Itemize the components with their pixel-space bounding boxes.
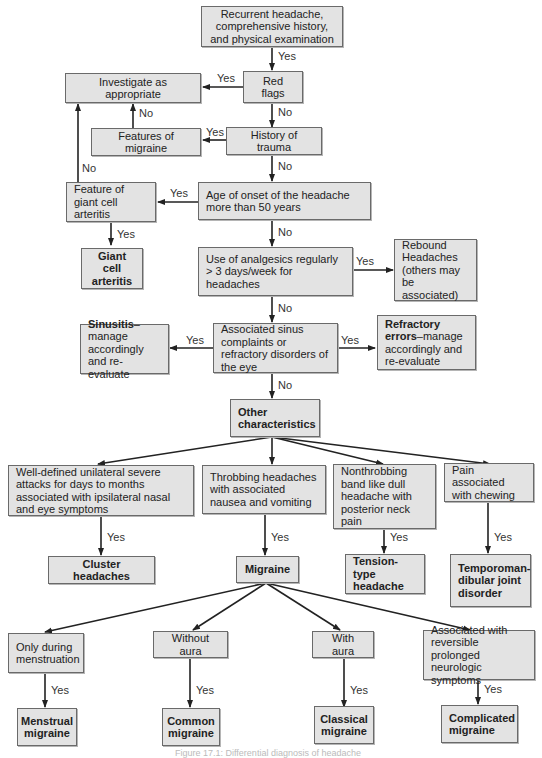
edge-label-yes: Yes — [278, 50, 296, 62]
edge-label-no: No — [278, 160, 292, 172]
node-nonthrobbing: Nonthrobbing band like dull headache wit… — [333, 464, 436, 529]
node-sinus: Associated sinus complaints or refractor… — [213, 323, 338, 373]
edge-label-yes: Yes — [206, 126, 224, 138]
edge-label-yes: Yes — [350, 684, 368, 696]
node-sinusitis: Sinusitis–manage accordingly and re-eval… — [80, 324, 169, 374]
node-analgesics: Use of analgesics regularly > 3 days/wee… — [198, 247, 353, 296]
node-red-flags: Red flags — [243, 71, 303, 103]
edge-label-yes: Yes — [196, 684, 214, 696]
node-complicated-migraine: Complicated migraine — [441, 705, 518, 743]
node-giant-cell-feature: Feature of giant cell arteritis — [66, 182, 156, 222]
edge-label-no: No — [278, 226, 292, 238]
node-unilateral: Well-defined unilateral severe attacks f… — [8, 465, 194, 516]
edge-label-yes: Yes — [51, 684, 69, 696]
node-without-aura: Without aura — [153, 631, 228, 658]
node-investigate: Investigate as appropriate — [65, 73, 201, 103]
node-classical-migraine: Classical migraine — [314, 706, 374, 744]
node-migraine: Migraine — [236, 556, 299, 583]
edge-label-no: No — [278, 302, 292, 314]
node-common-migraine: Common migraine — [162, 708, 220, 746]
node-other-characteristics: Other characteristics — [230, 399, 320, 437]
node-throbbing: Throbbing headaches with associated naus… — [202, 465, 326, 514]
edge-label-yes: Yes — [271, 531, 289, 543]
node-tmj: Temporoman-dibular joint disorder — [450, 554, 531, 607]
node-cluster-headaches: Cluster headaches — [48, 556, 155, 584]
edge-label-yes: Yes — [356, 255, 374, 267]
edge-label-yes: Yes — [390, 531, 408, 543]
edge-label-no: No — [139, 107, 153, 119]
node-rebound: Rebound Headaches (others may be associa… — [394, 239, 477, 301]
edge-label-yes: Yes — [117, 228, 135, 240]
figure-caption: Figure 17.1: Differential diagnosis of h… — [175, 748, 361, 758]
edge-label-no: No — [278, 379, 292, 391]
edge-label-yes: Yes — [484, 683, 502, 695]
node-giant-cell-arteritis: Giant cell arteritis — [81, 248, 143, 289]
node-chewing: Pain associated with chewing — [444, 463, 534, 502]
node-menstrual-migraine: Menstrual migraine — [17, 708, 77, 746]
node-age-onset: Age of onset of the headache more than 5… — [198, 182, 371, 220]
node-menstruation: Only during menstruation — [8, 633, 84, 673]
edge-label-yes: Yes — [494, 531, 512, 543]
node-refractory: Refractory errors–manage accordingly and… — [377, 315, 476, 370]
node-with-aura: With aura — [312, 631, 374, 658]
sinusitis-label: Sinusitis — [88, 318, 134, 330]
edge-label-no: No — [82, 162, 96, 174]
node-tension-type: Tension-type headache — [345, 554, 425, 594]
edge-label-no: No — [278, 106, 292, 118]
node-start: Recurrent headache, comprehensive histor… — [201, 6, 343, 47]
node-features-migraine: Features of migraine — [91, 128, 201, 156]
edge-label-yes: Yes — [341, 334, 359, 346]
node-neurologic: Associated with reversible prolonged neu… — [423, 630, 535, 680]
edge-label-yes: Yes — [170, 187, 188, 199]
edge-label-yes: Yes — [217, 72, 235, 84]
node-history-trauma: History of trauma — [226, 127, 322, 155]
edge-label-yes: Yes — [186, 334, 204, 346]
edge-label-yes: Yes — [107, 531, 125, 543]
